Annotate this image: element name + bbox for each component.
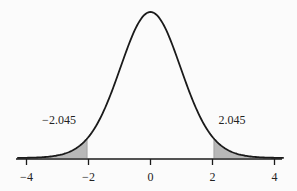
x-tick-label: 0 — [148, 170, 154, 184]
x-axis-ticks: −4−2024 — [20, 159, 277, 184]
right-critical-value-label: 2.045 — [219, 113, 246, 127]
density-curve — [17, 12, 284, 158]
x-tick-label: 2 — [210, 170, 216, 184]
t-distribution-chart: −4−2024 −2.045 2.045 — [0, 0, 297, 191]
x-tick-label: −4 — [20, 170, 33, 184]
left-critical-value-label: −2.045 — [42, 113, 76, 127]
x-tick-label: 4 — [272, 170, 278, 184]
x-tick-label: −2 — [82, 170, 95, 184]
